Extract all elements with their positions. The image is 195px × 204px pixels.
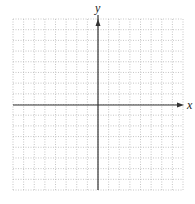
y-axis-arrow-icon [96, 19, 101, 26]
y-axis-label: y [94, 1, 101, 15]
x-axis-label: x [186, 98, 193, 112]
coordinate-plane: x y [0, 0, 195, 204]
